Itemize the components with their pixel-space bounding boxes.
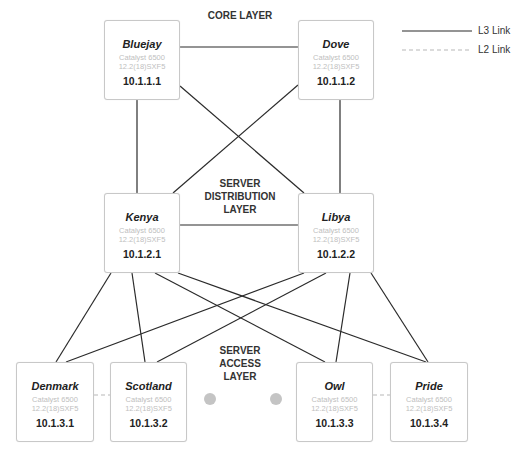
device-ios: 12.2(18)SXF5	[391, 404, 467, 413]
device-model: Catalyst 6500	[105, 53, 179, 62]
distribution-layer-line-2: DISTRIBUTION	[190, 190, 290, 203]
device-pride[interactable]: Pride Catalyst 6500 12.2(18)SXF5 10.1.3.…	[390, 362, 468, 442]
distribution-layer-label: SERVER DISTRIBUTION LAYER	[190, 177, 290, 216]
device-ios: 12.2(18)SXF5	[105, 62, 179, 71]
device-name: Owl	[297, 380, 372, 392]
legend-l3-label: L3 Link	[478, 25, 510, 36]
device-ip: 10.1.3.4	[391, 417, 467, 429]
device-name: Scotland	[111, 380, 186, 392]
device-model: Catalyst 6500	[299, 53, 373, 62]
device-model: Catalyst 6500	[17, 395, 93, 404]
device-denmark[interactable]: Denmark Catalyst 6500 12.2(18)SXF5 10.1.…	[16, 362, 94, 442]
core-layer-label: CORE LAYER	[190, 9, 290, 22]
ellipsis-dot-right	[270, 393, 282, 405]
access-layer-label: SERVER ACCESS LAYER	[200, 344, 280, 383]
device-model: Catalyst 6500	[299, 226, 373, 235]
link-kenya-scotland	[132, 273, 145, 362]
access-layer-line-1: SERVER	[200, 344, 280, 357]
device-bluejay[interactable]: Bluejay Catalyst 6500 12.2(18)SXF5 10.1.…	[104, 20, 180, 100]
device-model: Catalyst 6500	[111, 395, 186, 404]
device-name: Kenya	[105, 211, 179, 223]
device-ios: 12.2(18)SXF5	[299, 62, 373, 71]
link-libya-pride	[371, 273, 428, 362]
device-ip: 10.1.2.1	[105, 248, 179, 260]
device-model: Catalyst 6500	[297, 395, 372, 404]
device-model: Catalyst 6500	[105, 226, 179, 235]
device-ios: 12.2(18)SXF5	[297, 404, 372, 413]
device-dove[interactable]: Dove Catalyst 6500 12.2(18)SXF5 10.1.1.2	[298, 20, 374, 100]
device-ip: 10.1.3.3	[297, 417, 372, 429]
device-owl[interactable]: Owl Catalyst 6500 12.2(18)SXF5 10.1.3.3	[296, 362, 373, 442]
device-kenya[interactable]: Kenya Catalyst 6500 12.2(18)SXF5 10.1.2.…	[104, 193, 180, 273]
device-name: Dove	[299, 38, 373, 50]
device-name: Pride	[391, 380, 467, 392]
device-ip: 10.1.3.2	[111, 417, 186, 429]
device-libya[interactable]: Libya Catalyst 6500 12.2(18)SXF5 10.1.2.…	[298, 193, 374, 273]
device-ip: 10.1.1.1	[105, 75, 179, 87]
ellipsis-dot-left	[204, 393, 216, 405]
device-ip: 10.1.1.2	[299, 75, 373, 87]
device-name: Libya	[299, 211, 373, 223]
device-ios: 12.2(18)SXF5	[111, 404, 186, 413]
access-layer-line-3: LAYER	[200, 370, 280, 383]
device-ip: 10.1.3.1	[17, 417, 93, 429]
device-name: Denmark	[17, 380, 93, 392]
distribution-layer-line-1: SERVER	[190, 177, 290, 190]
device-model: Catalyst 6500	[391, 395, 467, 404]
device-ios: 12.2(18)SXF5	[299, 235, 373, 244]
access-layer-line-2: ACCESS	[200, 357, 280, 370]
link-libya-owl	[336, 273, 350, 362]
legend-l2-label: L2 Link	[478, 44, 510, 55]
distribution-layer-line-3: LAYER	[190, 203, 290, 216]
device-scotland[interactable]: Scotland Catalyst 6500 12.2(18)SXF5 10.1…	[110, 362, 187, 442]
device-ios: 12.2(18)SXF5	[105, 235, 179, 244]
device-ip: 10.1.2.2	[299, 248, 373, 260]
device-ios: 12.2(18)SXF5	[17, 404, 93, 413]
device-name: Bluejay	[105, 38, 179, 50]
